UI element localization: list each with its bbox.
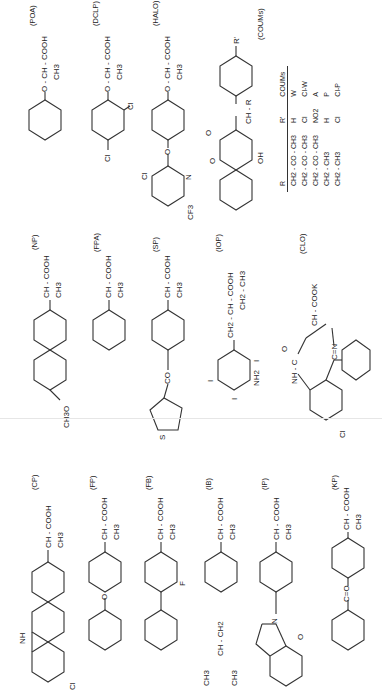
substituent-i-3: I — [252, 360, 261, 362]
side-chain: O - CH - COOH — [40, 36, 49, 92]
substituent-r-prime: R' — [232, 37, 241, 44]
compound-code: (HALO) — [151, 1, 160, 26]
branch-ch3: CH3 — [168, 524, 177, 540]
compound-iop: I I I NH2 CH2 - CH - COOH CH2 - CH3 (IOP… — [204, 230, 264, 450]
cell-r: CH2 - CO - CH3 — [310, 129, 321, 192]
compound-clo: Cl NH - C O C=N CH - COOK (CLO) — [276, 230, 376, 450]
branch-ch3: CH3 — [228, 524, 237, 540]
header-r-prime: R' — [278, 103, 288, 129]
compound-code: (POA) — [28, 5, 37, 26]
compound-code: (SP) — [151, 237, 160, 252]
substituent-cl: Cl — [338, 430, 347, 438]
branch-ch3: CH3 — [284, 524, 293, 540]
branch-ch3: CH3 — [175, 282, 184, 298]
table-row: CH2 - CO - CH3 Cl Cl-W — [299, 66, 310, 192]
dichlorobenzene-icon — [80, 0, 135, 220]
compound-code: (IB) — [204, 478, 213, 490]
table-row: CH2 - CO - CH3 H W — [288, 66, 300, 192]
column-1: Cl NH CH - COOH CH3 (CP) O CH - COOH CH3… — [0, 467, 382, 700]
side-chain: CH - COOH — [42, 255, 51, 298]
branch-ch3: CH3 — [52, 64, 61, 80]
ring-o: O — [208, 158, 217, 164]
cell-r-prime: H — [288, 103, 300, 129]
compound-code: (FPA) — [92, 233, 101, 252]
substituent-cl: Cl — [140, 172, 149, 180]
isoindolinone-ring-icon — [252, 470, 312, 690]
branch-ch3: CH3 — [354, 514, 363, 530]
branch-ch2-ch3: CH2 - CH3 — [238, 271, 247, 310]
substituent-o: O — [296, 634, 305, 640]
compound-kp: C=O CH - COOH CH3 (KP) — [318, 470, 373, 690]
branch-ch3: CH3 — [56, 532, 65, 548]
substituent-cf3: CF3 — [186, 205, 195, 220]
substituent-o: O — [280, 346, 289, 352]
substituent-ch-ch2: CH - CH2 — [216, 621, 225, 656]
side-chain: CH - COOK — [310, 284, 319, 326]
column-2: CH3O CH - COOH CH3 (NP) CH - COOH CH3 (F… — [0, 230, 382, 460]
compound-code: (IP) — [260, 478, 269, 490]
compound-fb: F CH - COOH CH3 (FB) — [136, 470, 186, 690]
compound-fp: O CH - COOH CH3 (FP) — [80, 470, 130, 690]
compound-halo: CF3 Cl N O O - CH - COOH CH3 (HALO) — [140, 0, 195, 220]
substituent-i-1: I — [206, 380, 215, 382]
substituent-s: S — [158, 435, 167, 440]
compound-fpa: CH - COOH CH3 (FPA) — [84, 230, 134, 450]
column-3: O - CH - COOH CH3 (POA) Cl Cl O - CH - C… — [0, 0, 382, 228]
compound-ib: CH3 CH - CH2 CH3 CH - COOH CH3 (IB) — [196, 470, 246, 690]
cell-coums: Cl-W — [299, 66, 310, 103]
compound-code: (IOP) — [214, 234, 223, 252]
side-chain: CH - COOH — [216, 497, 225, 540]
substituent-nh: NH — [18, 632, 27, 644]
compound-np: CH3O CH - COOH CH3 (NP) — [20, 230, 80, 450]
substituent-i-2: I — [230, 398, 239, 400]
substituent-n: N — [270, 618, 279, 624]
cell-r: CH2 - CO - CH3 — [288, 129, 300, 192]
header-r: R — [278, 129, 288, 192]
benzene-ring-icon — [20, 0, 70, 220]
substituent-cl: Cl — [68, 682, 77, 690]
carbazole-ring-icon — [18, 470, 78, 690]
cell-r-prime: Cl — [332, 103, 343, 129]
table-row: CH2 - CH3 Cl Cl-P — [332, 66, 343, 192]
side-chain: CH - COOH — [44, 505, 53, 548]
substituent-nh2: NH2 — [252, 370, 261, 386]
ether-o: O — [163, 149, 172, 155]
branch-ch3: CH3 — [115, 64, 124, 80]
cell-r-prime: H — [321, 103, 332, 129]
table-row: CH2 - CO - CH3 NO2 A — [310, 66, 321, 192]
compound-code: (FB) — [144, 475, 153, 490]
side-chain: CH - COOH — [272, 497, 281, 540]
compound-code: (KP) — [330, 475, 339, 490]
cell-coums: A — [310, 66, 321, 103]
compound-code: (COUMs) — [256, 8, 265, 40]
figure-canvas: Cl NH CH - COOH CH3 (CP) O CH - COOH CH3… — [0, 0, 382, 700]
compound-code: (FP) — [88, 475, 97, 490]
substituent-oh: OH — [256, 152, 265, 164]
coumarin-table: R R' COUMs CH2 - CO - CH3 H W CH2 - CO -… — [278, 66, 343, 192]
branch-ch3: CH3 — [175, 64, 184, 80]
compound-code: (NP) — [30, 235, 39, 250]
side-chain: CH - COOH — [156, 497, 165, 540]
compound-poa: O - CH - COOH CH3 (POA) — [20, 0, 70, 220]
compound-code: (DCLP) — [91, 1, 100, 26]
substituent-c-n: C=N — [330, 344, 339, 360]
substituent-ch3-2: CH3 — [230, 670, 239, 686]
branch-ch3: CH3 — [54, 282, 63, 298]
substituent-f: F — [178, 581, 187, 586]
table-header: R R' COUMs — [278, 66, 288, 192]
cell-r: CH2 - CH3 — [332, 129, 343, 192]
substituent-cl-1: Cl — [103, 154, 112, 162]
cell-coums: W — [288, 66, 300, 103]
cell-r: CH2 - CO - CH3 — [299, 129, 310, 192]
scan-artifact-line — [0, 418, 382, 419]
table-row: CH2 - CH3 H P — [321, 66, 332, 192]
pyridyloxy-phenyl-icon — [140, 0, 195, 220]
side-chain: O - CH - COOH — [163, 36, 172, 92]
substituent-co: CO — [163, 372, 172, 384]
carbonyl-o: O — [204, 130, 213, 136]
substituent-nh-c: NH - C — [290, 360, 299, 384]
substituent-co: C=O — [342, 585, 351, 602]
branch-ch3: CH3 — [112, 524, 121, 540]
substituent-ch3o: CH3O — [62, 406, 71, 428]
ether-o: O — [100, 594, 109, 600]
